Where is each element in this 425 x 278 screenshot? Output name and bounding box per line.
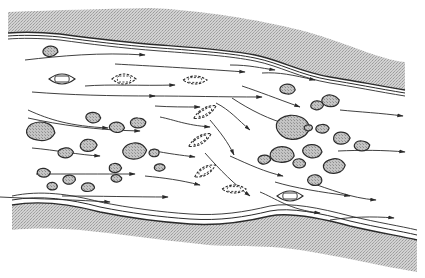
rock xyxy=(130,118,145,128)
flow-arrow xyxy=(160,117,210,127)
rock xyxy=(308,175,322,186)
boat-ghost xyxy=(112,74,136,84)
rock xyxy=(86,112,101,123)
flow-arrow xyxy=(115,64,245,72)
flow-arrow xyxy=(216,103,250,130)
flow-arrow xyxy=(338,150,405,152)
river-diagram-svg xyxy=(0,0,425,278)
rock xyxy=(303,145,322,158)
boat xyxy=(49,74,75,84)
boats xyxy=(49,74,303,201)
boat xyxy=(277,191,303,201)
flow-arrow xyxy=(150,96,262,97)
rock xyxy=(316,124,329,133)
river-diagram xyxy=(0,0,425,278)
rock xyxy=(47,182,57,190)
rock xyxy=(58,148,73,158)
boat-ghost xyxy=(187,130,214,150)
rock xyxy=(109,122,124,132)
rock xyxy=(154,164,165,171)
boat-ghost xyxy=(222,185,246,193)
rock xyxy=(81,183,94,192)
flow-arrow xyxy=(25,54,145,60)
rock xyxy=(149,149,159,157)
flow-arrow xyxy=(145,176,200,185)
rock xyxy=(26,122,54,141)
rock xyxy=(123,143,147,159)
rock xyxy=(80,139,97,151)
flow-arrow xyxy=(85,85,175,86)
flow-arrow xyxy=(210,120,234,155)
boat-ghost xyxy=(193,162,218,181)
rock xyxy=(63,175,76,184)
rock xyxy=(111,175,122,183)
rock xyxy=(37,168,50,177)
rock xyxy=(323,159,345,174)
rock xyxy=(258,155,271,164)
boat-ghost xyxy=(192,102,219,122)
boat-ghost xyxy=(183,76,207,84)
rock xyxy=(109,163,121,172)
rock xyxy=(293,159,306,168)
flow-arrow xyxy=(230,65,275,70)
rock xyxy=(354,141,369,151)
flow-arrow xyxy=(32,92,155,96)
rock xyxy=(280,84,295,94)
rock xyxy=(322,95,339,107)
rock xyxy=(43,46,58,56)
bottom-bank xyxy=(12,193,417,272)
rock xyxy=(304,125,312,131)
flow-arrow xyxy=(340,110,403,116)
flow-arrow xyxy=(155,106,200,107)
rock xyxy=(270,147,294,163)
rock xyxy=(334,132,350,144)
bottom-bank-land xyxy=(12,203,417,272)
